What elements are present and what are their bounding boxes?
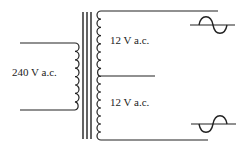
secondary-coil-lower <box>97 76 101 140</box>
secondary-upper-voltage-label: 12 V a.c. <box>110 35 149 46</box>
transformer-diagram: 240 V a.c. 12 V a.c. 12 V a.c. <box>0 0 251 152</box>
primary-voltage-label: 240 V a.c. <box>12 67 57 78</box>
ac-sine-icon-top <box>190 17 235 34</box>
ac-sine-icon-bottom <box>191 116 236 133</box>
secondary-lower-voltage-label: 12 V a.c. <box>110 97 149 108</box>
secondary-coil-upper <box>97 11 101 77</box>
primary-coil <box>75 43 79 110</box>
